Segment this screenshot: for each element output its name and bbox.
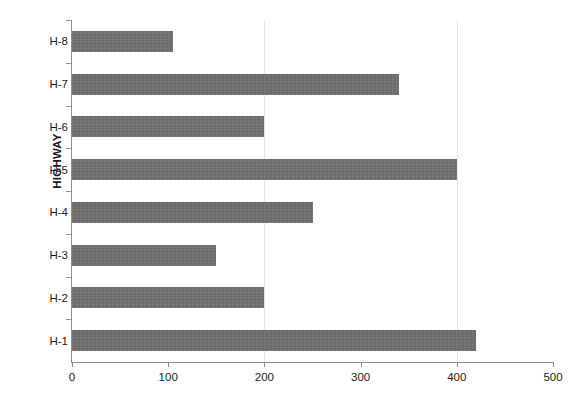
bar [72,287,264,308]
y-axis-tick-label: H-2 [6,291,68,305]
y-axis-tick-mark [66,148,72,149]
y-axis-tick-label: H-1 [6,334,68,348]
x-axis-tick-mark [361,362,362,367]
bar [72,116,264,137]
gridline [457,20,458,362]
y-axis-tick-mark [66,106,72,107]
bar-chart: HIGHWAY H-1H-2H-3H-4H-5H-6H-7H-8 0100200… [0,0,583,404]
x-axis-tick-mark [553,362,554,367]
bar [72,330,476,351]
gridline [264,20,265,362]
y-axis-tick-label: H-7 [6,77,68,91]
x-axis-tick-label: 500 [523,370,583,384]
bar [72,159,457,180]
y-axis-tick-mark [66,20,72,21]
y-axis-tick-labels: H-1H-2H-3H-4H-5H-6H-7H-8 [0,0,68,404]
y-axis-tick-label: H-8 [6,34,68,48]
y-axis-tick-mark [66,319,72,320]
y-axis-tick-mark [66,234,72,235]
x-axis-line [72,362,554,363]
x-axis-tick-mark [72,362,73,367]
bar [72,245,216,266]
x-axis-tick-label: 0 [42,370,102,384]
y-axis-tick-label: H-4 [6,205,68,219]
x-axis-tick-label: 300 [331,370,391,384]
plot-area [72,20,553,362]
x-axis-tick-mark [168,362,169,367]
x-axis-tick-mark [264,362,265,367]
x-axis-tick-label: 400 [427,370,487,384]
bar [72,31,173,52]
bar [72,202,313,223]
bar [72,74,399,95]
y-axis-tick-label: H-5 [6,163,68,177]
y-axis-tick-label: H-3 [6,248,68,262]
x-axis-tick-label: 100 [138,370,198,384]
y-axis-tick-mark [66,277,72,278]
x-axis-tick-label: 200 [234,370,294,384]
y-axis-tick-mark [66,191,72,192]
y-axis-tick-label: H-6 [6,120,68,134]
x-axis-tick-mark [457,362,458,367]
y-axis-tick-mark [66,63,72,64]
